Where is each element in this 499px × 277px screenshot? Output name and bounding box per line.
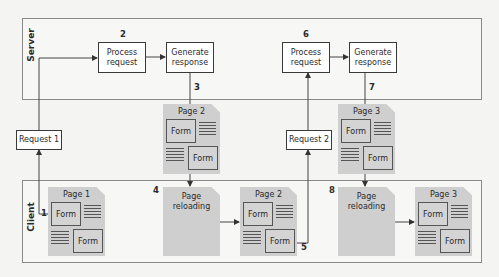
form-block: Form [418, 202, 448, 226]
reload-line2: reloading [163, 202, 220, 212]
process-request-line2: request [291, 58, 321, 68]
step-number-1: 1 [41, 208, 47, 218]
generate-response-line2: response [354, 58, 391, 68]
generate-response-line2: response [171, 58, 208, 68]
text-lines-icon [276, 205, 293, 220]
form-block: Form [243, 202, 273, 226]
reload-line1: Page [163, 192, 220, 202]
process-request-box-1: Processrequest [98, 42, 146, 73]
text-lines-icon [84, 205, 101, 220]
text-lines-icon [243, 231, 261, 246]
request-1-box: Request 1 [16, 130, 62, 150]
form-block: Form [440, 229, 470, 253]
generate-response-box-1: Generateresponse [166, 42, 214, 73]
step-number-2: 2 [120, 29, 126, 39]
step-number-3: 3 [194, 82, 200, 92]
process-request-box-2: Processrequest [282, 42, 330, 73]
page-title: Page 3 [415, 190, 472, 199]
generate-response-box-2: Generateresponse [349, 42, 397, 73]
page-title: Page 2 [163, 107, 220, 116]
client-page-1: Page 1 Form Form [48, 187, 105, 256]
step-number-8: 8 [329, 185, 335, 195]
transit-page-3: Page 3 Form Form [338, 104, 395, 174]
page-title: Page 2 [240, 190, 297, 199]
process-request-line2: request [107, 58, 137, 68]
reload-line2: reloading [338, 202, 395, 212]
form-block: Form [363, 146, 393, 170]
form-block: Form [265, 229, 295, 253]
generate-response-line1: Generate [354, 48, 391, 58]
form-block: Form [166, 119, 196, 143]
text-lines-icon [341, 148, 359, 163]
text-lines-icon [418, 231, 436, 246]
client-page-3: Page 3 Form Form [415, 187, 472, 256]
text-lines-icon [451, 205, 468, 220]
reload-line1: Page [338, 192, 395, 202]
process-request-line1: Process [291, 48, 321, 58]
process-request-line1: Process [107, 48, 137, 58]
client-page-2: Page 2 Form Form [240, 187, 297, 256]
form-block: Form [73, 229, 103, 253]
form-block: Form [341, 119, 371, 143]
text-lines-icon [51, 231, 69, 246]
text-lines-icon [199, 122, 216, 137]
form-block: Form [188, 146, 218, 170]
transit-page-2: Page 2 Form Form [163, 104, 220, 174]
step-number-6: 6 [303, 29, 309, 39]
request-2-box: Request 2 [286, 130, 332, 150]
page-reloading-2: Pagereloading [338, 187, 395, 256]
text-lines-icon [166, 148, 184, 163]
step-number-5: 5 [301, 242, 307, 252]
generate-response-line1: Generate [171, 48, 208, 58]
form-block: Form [51, 202, 81, 226]
step-number-4: 4 [153, 185, 159, 195]
page-title: Page 3 [338, 107, 395, 116]
text-lines-icon [374, 122, 391, 137]
step-number-7: 7 [369, 82, 375, 92]
page-reloading-1: Pagereloading [163, 187, 220, 256]
page-title: Page 1 [48, 190, 105, 199]
